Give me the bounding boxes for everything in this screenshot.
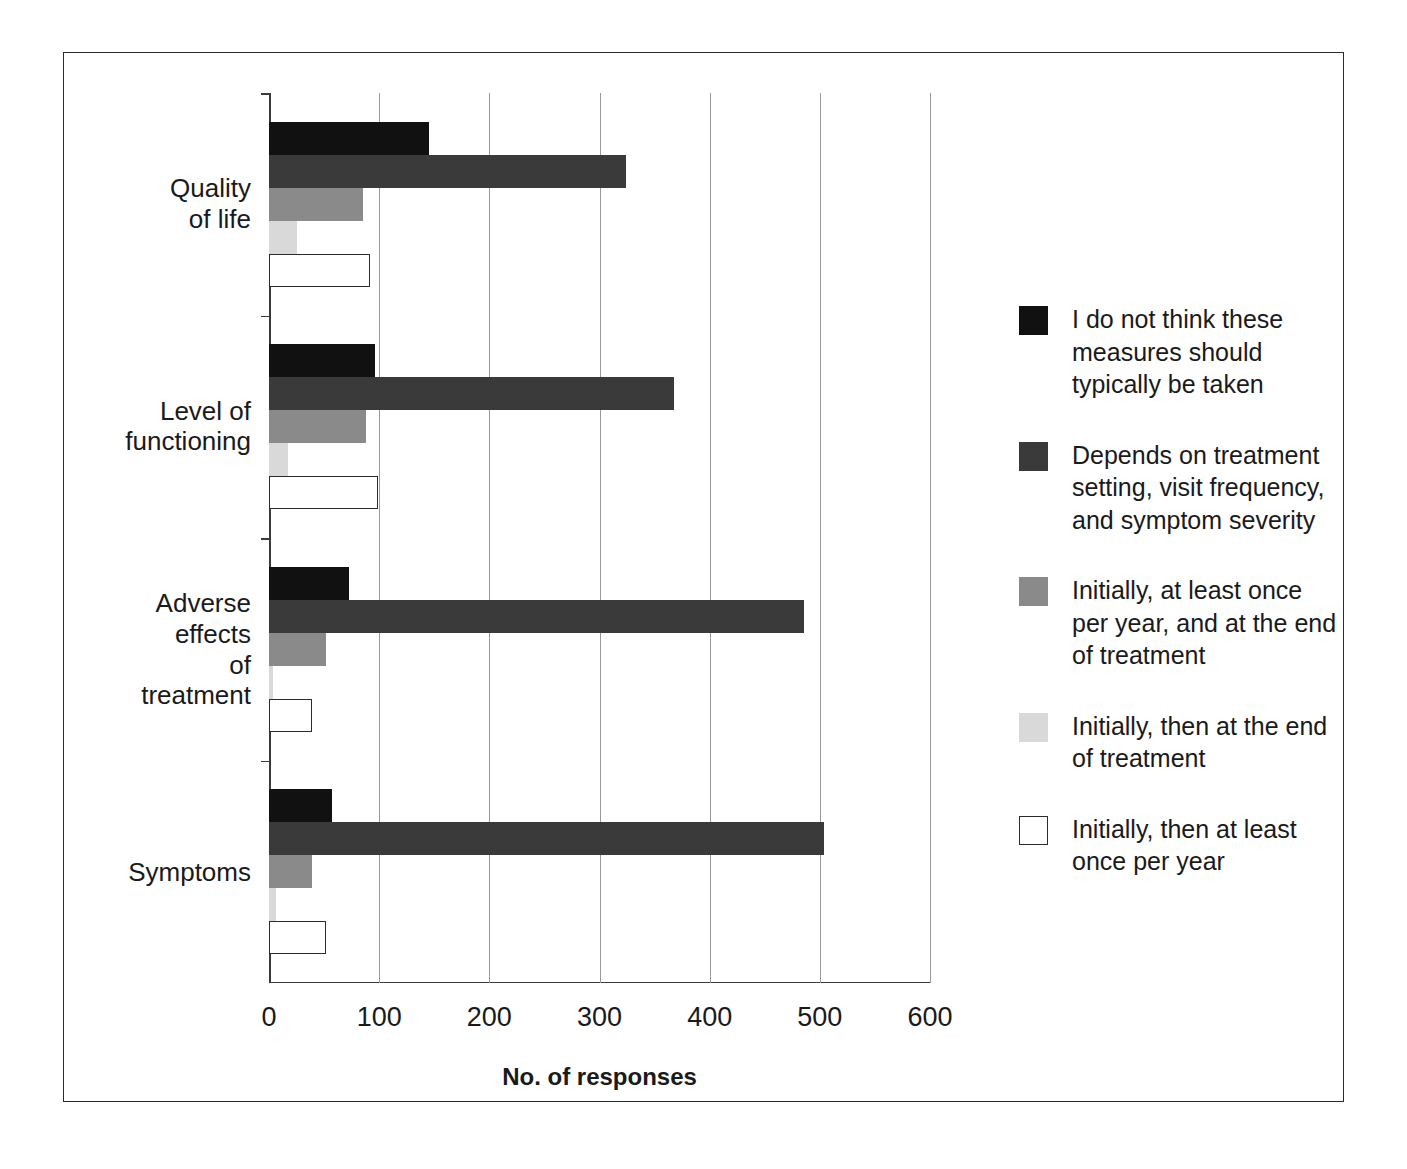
y-axis-tick bbox=[261, 316, 269, 318]
bar bbox=[269, 155, 626, 188]
y-axis-tick bbox=[261, 761, 269, 763]
bar bbox=[269, 443, 288, 476]
legend-item[interactable]: I do not think these measures should typ… bbox=[1019, 303, 1339, 401]
bar bbox=[269, 855, 312, 888]
category-label: Quality of life bbox=[170, 174, 251, 235]
category-label: Symptoms bbox=[128, 856, 251, 887]
black-swatch-icon bbox=[1019, 306, 1048, 335]
legend-item[interactable]: Initially, then at the end of treatment bbox=[1019, 710, 1339, 775]
legend-item[interactable]: Initially, then at least once per year bbox=[1019, 813, 1339, 878]
x-tick-label: 500 bbox=[797, 1002, 842, 1033]
chart-figure-frame: No. of responses 0100200300400500600Qual… bbox=[63, 52, 1344, 1102]
bar bbox=[269, 188, 363, 221]
legend-item-label: Depends on treatment setting, visit freq… bbox=[1072, 439, 1339, 537]
medium-gray-swatch-icon bbox=[1019, 577, 1048, 606]
x-tick-label: 300 bbox=[577, 1002, 622, 1033]
bar-group: Symptoms bbox=[269, 761, 930, 984]
bar bbox=[269, 699, 312, 732]
category-label: Adverse effects of treatment bbox=[141, 588, 251, 711]
bar bbox=[269, 666, 273, 699]
bar bbox=[269, 567, 349, 600]
bar bbox=[269, 221, 297, 254]
x-tick-label: 100 bbox=[357, 1002, 402, 1033]
bar bbox=[269, 122, 429, 155]
legend-item-label: Initially, then at least once per year bbox=[1072, 813, 1339, 878]
x-tick-label: 0 bbox=[261, 1002, 276, 1033]
y-axis-tick bbox=[261, 538, 269, 540]
bar bbox=[269, 921, 326, 954]
bar bbox=[269, 410, 366, 443]
x-tick-label: 600 bbox=[907, 1002, 952, 1033]
x-tick-label: 400 bbox=[687, 1002, 732, 1033]
bar bbox=[269, 344, 375, 377]
bar bbox=[269, 633, 326, 666]
gridline bbox=[930, 93, 931, 983]
y-axis-tick-top bbox=[261, 93, 269, 95]
x-tick-label: 200 bbox=[467, 1002, 512, 1033]
bar bbox=[269, 822, 824, 855]
dark-gray-swatch-icon bbox=[1019, 442, 1048, 471]
bar-group: Quality of life bbox=[269, 93, 930, 316]
bar bbox=[269, 789, 332, 822]
white-swatch-icon bbox=[1019, 816, 1048, 845]
legend-item[interactable]: Depends on treatment setting, visit freq… bbox=[1019, 439, 1339, 537]
plot-wrapper: No. of responses 0100200300400500600Qual… bbox=[64, 53, 1004, 1103]
bar bbox=[269, 377, 674, 410]
legend-item-label: Initially, at least once per year, and a… bbox=[1072, 574, 1339, 672]
bar bbox=[269, 888, 276, 921]
bar-group: Adverse effects of treatment bbox=[269, 538, 930, 761]
bar bbox=[269, 254, 370, 287]
legend-item-label: I do not think these measures should typ… bbox=[1072, 303, 1339, 401]
x-axis-title: No. of responses bbox=[269, 1063, 930, 1091]
bar-group: Level of functioning bbox=[269, 316, 930, 539]
bar bbox=[269, 600, 804, 633]
legend-item[interactable]: Initially, at least once per year, and a… bbox=[1019, 574, 1339, 672]
plot-area: No. of responses 0100200300400500600Qual… bbox=[269, 93, 930, 983]
bar bbox=[269, 476, 378, 509]
category-label: Level of functioning bbox=[125, 396, 251, 457]
light-gray-swatch-icon bbox=[1019, 713, 1048, 742]
chart-legend: I do not think these measures should typ… bbox=[1019, 303, 1339, 916]
legend-item-label: Initially, then at the end of treatment bbox=[1072, 710, 1339, 775]
